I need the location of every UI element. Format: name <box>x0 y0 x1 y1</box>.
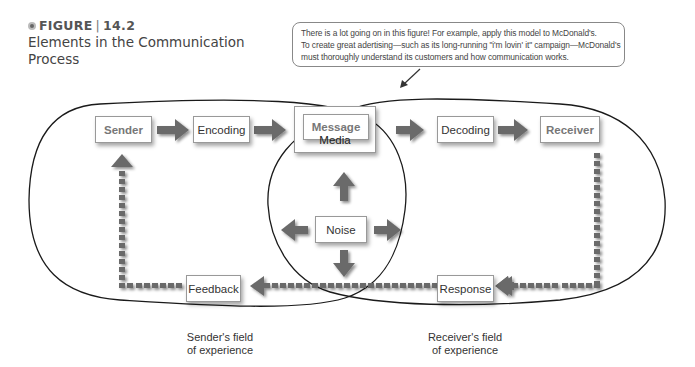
node-feedback-label: Feedback <box>188 283 239 295</box>
callout-pointer-arrow-icon <box>400 69 420 88</box>
arrow-encoding-to-message-icon <box>254 119 286 141</box>
sender-field-label: Sender's field of experience <box>170 331 270 357</box>
sender-field-label-line-1: Sender's field <box>170 331 270 344</box>
node-feedback: Feedback <box>186 275 241 302</box>
node-noise: Noise <box>315 216 367 243</box>
receiver-field-label-line-1: Receiver's field <box>405 331 525 344</box>
node-sender-label: Sender <box>104 124 143 136</box>
arrow-noise-right-icon <box>374 219 401 241</box>
node-encoding-label: Encoding <box>198 124 246 136</box>
node-response-label: Response <box>440 283 492 295</box>
node-response: Response <box>437 275 494 302</box>
arrow-noise-left-icon <box>281 219 308 241</box>
node-decoding-label: Decoding <box>441 124 490 136</box>
arrow-sender-to-encoding-icon <box>157 119 189 141</box>
arrow-message-to-decoding-icon <box>396 119 424 141</box>
node-message-label: Message <box>312 121 361 133</box>
node-encoding: Encoding <box>193 116 250 143</box>
dashed-response-to-feedback <box>250 276 438 296</box>
node-receiver: Receiver <box>540 116 600 143</box>
node-sender: Sender <box>95 116 152 143</box>
sender-field-label-line-2: of experience <box>170 344 270 357</box>
node-noise-label: Noise <box>326 224 355 236</box>
diagram-canvas <box>0 0 695 367</box>
node-decoding: Decoding <box>437 116 494 143</box>
node-media-label: Media <box>294 134 376 146</box>
node-receiver-label: Receiver <box>546 124 594 136</box>
dashed-feedback-to-sender <box>111 154 182 288</box>
dashed-receiver-to-response <box>495 153 600 296</box>
receiver-field-label: Receiver's field of experience <box>405 331 525 357</box>
arrow-decoding-to-receiver-icon <box>498 119 528 141</box>
arrow-noise-down-icon <box>333 250 355 277</box>
receiver-field-label-line-2: of experience <box>405 344 525 357</box>
arrow-noise-up-icon <box>333 172 355 201</box>
